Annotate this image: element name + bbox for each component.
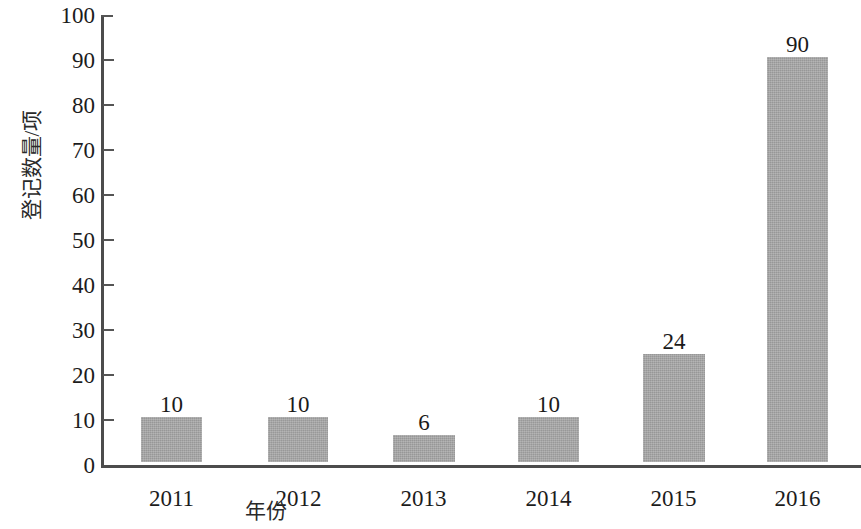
y-tick-label: 30 [33,319,95,342]
y-tick-mark [103,104,114,106]
bar-2013[interactable] [393,435,455,462]
y-tick-label: 60 [33,184,95,207]
y-tick-mark [103,239,114,241]
bar-2014[interactable] [518,417,579,462]
y-tick-mark [103,284,114,286]
y-tick-label: 100 [33,4,95,27]
x-axis-title: 年份 [245,501,287,522]
bar-2012[interactable] [268,417,328,462]
y-tick-mark [103,329,114,331]
y-tick-mark [103,149,114,151]
bar-2015[interactable] [643,354,705,462]
plot-area: 10 10 6 10 24 90 2011 2012 2013 2014 201… [101,15,861,465]
y-tick-label: 40 [33,274,95,297]
y-tick-mark [103,59,114,61]
y-tick-label: 20 [33,364,95,387]
y-tick-mark [103,194,114,196]
bar-value-label: 6 [393,411,455,434]
bar-value-label: 10 [268,393,328,416]
bar-value-label: 90 [767,33,828,56]
y-tick-label: 10 [33,409,95,432]
y-tick-label: 0 [33,454,95,477]
bar-value-label: 24 [643,330,705,353]
bar-2011[interactable] [141,417,202,462]
y-tick-mark [103,419,114,421]
y-tick-label: 80 [33,94,95,117]
y-axis-top-cap [101,15,113,17]
bar-value-label: 10 [518,393,579,416]
x-axis-line [101,465,861,468]
bar-value-label: 10 [141,393,202,416]
x-axis-title-wrap: 年份 [0,501,861,522]
y-tick-label: 70 [33,139,95,162]
bar-chart-figure: 登记数量/项 100 90 80 70 60 50 40 30 20 10 0 [0,0,861,529]
y-tick-mark [103,374,114,376]
y-axis-tick-labels: 100 90 80 70 60 50 40 30 20 10 0 [25,0,95,529]
bar-2016[interactable] [767,57,828,462]
y-tick-label: 90 [33,49,95,72]
y-axis-line [101,15,104,467]
y-tick-label: 50 [33,229,95,252]
